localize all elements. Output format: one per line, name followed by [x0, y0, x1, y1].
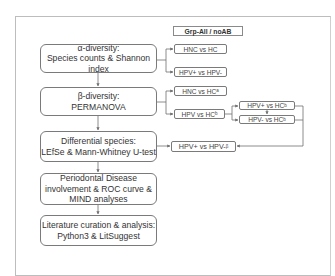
step-line: Periodontal Disease: [45, 173, 152, 184]
comparison-hpv-vs-hc-b: HPV vs HCb: [174, 109, 225, 119]
step-alpha-diversity: α-diversity: Species counts & Shannon in…: [40, 44, 157, 73]
comparison-hpvplus-vs-hpvminus-beta: HPV+ vs HPV-β: [171, 141, 236, 152]
step-line: Literature curation & analysis:: [42, 220, 155, 231]
step-beta-diversity: β-diversity: PERMANOVA: [40, 87, 157, 116]
comparison-text: HNC vs HC: [182, 88, 216, 95]
comparison-text: HPV+ vs HPV-: [179, 142, 226, 151]
step-differential-species: Differential species: LEfSe & Mann-Whitn…: [40, 131, 157, 162]
comparison-text: HPV vs HC: [182, 111, 215, 118]
step-line: Python3 & LitSuggest: [42, 231, 155, 242]
step-line: Species counts & Shannon: [47, 53, 150, 64]
comparison-hnc-vs-hc-a: HNC vs HCa: [174, 86, 227, 96]
comparison-hpvplus-vs-hc-b: HPV+ vs HCb: [239, 101, 295, 110]
step-line: α-diversity:: [47, 43, 150, 54]
comparison-hnc-vs-hc: HNC vs HC: [174, 44, 227, 54]
step-line: Differential species:: [41, 136, 156, 147]
step-line: involvement & ROC curve &: [45, 184, 152, 195]
comparison-text: HPV+ vs HC: [247, 102, 284, 109]
step-line: index: [47, 64, 150, 75]
comparison-hpvplus-vs-hpvminus: HPV+ vs HPV-: [174, 67, 227, 77]
step-periodontal-disease: Periodontal Disease involvement & ROC cu…: [40, 173, 157, 205]
step-line: MIND analyses: [45, 194, 152, 205]
step-line: β-diversity:: [71, 91, 125, 102]
group-label: Grp-All / noAB: [173, 26, 243, 36]
comparison-hpvminus-vs-hc-b: HPV- vs HCb: [239, 115, 295, 124]
step-line: LEfSe & Mann-Whitney U-test: [41, 147, 156, 158]
comparison-text: HNC vs HC: [183, 46, 217, 53]
comparison-text: HPV+ vs HPV-: [179, 69, 222, 76]
step-literature-curation: Literature curation & analysis: Python3 …: [40, 215, 157, 246]
comparison-text: HPV- vs HC: [248, 116, 283, 123]
step-line: PERMANOVA: [71, 102, 125, 113]
